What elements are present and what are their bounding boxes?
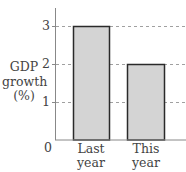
y-tick-2: 2 — [38, 57, 50, 71]
x-tick-last-year: Last year — [71, 142, 111, 170]
x-tick-line: Last — [71, 142, 111, 156]
bar-last-year — [74, 27, 110, 141]
x-tick-line: year — [71, 156, 111, 170]
x-tick-line: year — [126, 156, 166, 170]
y-tick-1: 1 — [38, 95, 50, 109]
bar-this-year — [128, 65, 165, 141]
y-axis-title-line: growth — [2, 75, 46, 90]
origin-label: 0 — [40, 141, 52, 155]
y-tick-3: 3 — [38, 19, 50, 33]
x-tick-line: This — [126, 142, 166, 156]
x-tick-this-year: This year — [126, 142, 166, 170]
